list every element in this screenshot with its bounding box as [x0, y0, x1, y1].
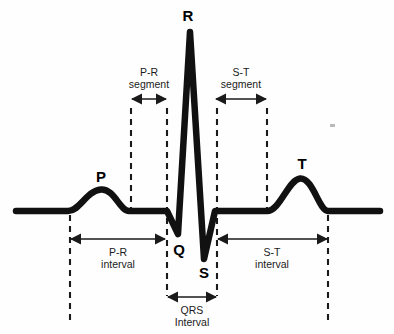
annotation-st-interval-line2: interval [255, 258, 289, 270]
wave-label-s: S [199, 265, 209, 280]
annotation-qrs-interval-line1: QRS [175, 304, 209, 316]
annotation-pr-segment-line1: P-R [129, 66, 169, 78]
ecg-waveform-path [16, 32, 380, 259]
wave-label-r: R [183, 8, 194, 23]
ecg-diagram: P Q R S T P-R segment S-T segment P-R in… [0, 0, 394, 334]
ecg-trace [16, 32, 380, 259]
annotation-st-segment-line1: S-T [221, 66, 261, 78]
annotation-st-interval: S-T interval [255, 246, 289, 270]
annotation-pr-segment-line2: segment [129, 78, 169, 90]
scan-speck-artifact [330, 124, 335, 127]
annotation-st-segment: S-T segment [221, 66, 261, 90]
annotation-pr-segment: P-R segment [129, 66, 169, 90]
annotation-qrs-interval: QRS Interval [175, 304, 209, 328]
annotation-qrs-interval-line2: Interval [175, 316, 209, 328]
annotation-st-segment-line2: segment [221, 78, 261, 90]
wave-label-q: Q [173, 242, 185, 257]
wave-label-p: P [96, 169, 106, 184]
ecg-graphic [0, 0, 394, 334]
wave-label-t: T [297, 156, 306, 171]
annotation-st-interval-line1: S-T [255, 246, 289, 258]
annotation-pr-interval-line1: P-R [101, 246, 135, 258]
annotation-pr-interval-line2: interval [101, 258, 135, 270]
annotation-pr-interval: P-R interval [101, 246, 135, 270]
